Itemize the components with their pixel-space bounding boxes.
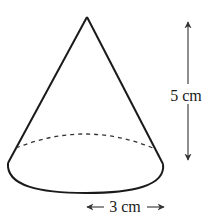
cone-right-side bbox=[87, 17, 163, 164]
base-hidden-arc bbox=[16, 134, 153, 148]
height-label: 5 cm bbox=[170, 87, 202, 104]
radius-label: 3 cm bbox=[109, 198, 141, 215]
cone-figure: 5 cm 3 cm bbox=[0, 0, 214, 218]
cone-diagram: 5 cm 3 cm bbox=[0, 0, 214, 218]
cone-left-side bbox=[8, 17, 87, 163]
base-front-arc bbox=[8, 163, 163, 193]
